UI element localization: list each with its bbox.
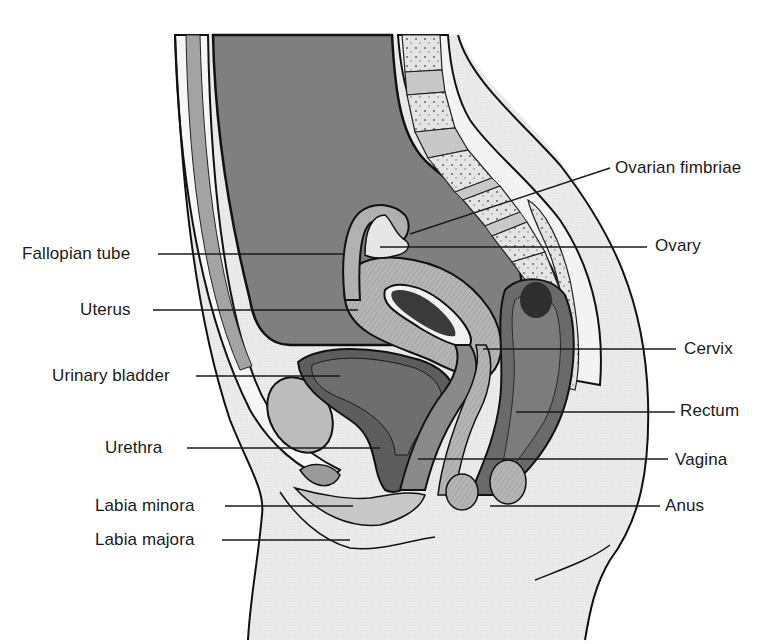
label-labia-majora: Labia majora [95, 530, 194, 550]
label-cervix: Cervix [684, 339, 733, 359]
label-ovarian-fimbriae: Ovarian fimbriae [615, 158, 741, 178]
label-uterus: Uterus [80, 300, 131, 320]
label-labia-minora: Labia minora [95, 496, 194, 516]
label-urethra: Urethra [105, 438, 162, 458]
anal-sphincter [446, 474, 478, 510]
anatomy-figure: Fallopian tube Uterus Urinary bladder Ur… [0, 0, 784, 644]
label-rectum: Rectum [680, 401, 739, 421]
label-fallopian-tube: Fallopian tube [22, 244, 130, 264]
label-ovary: Ovary [655, 236, 701, 256]
label-anus: Anus [665, 496, 704, 516]
label-urinary-bladder: Urinary bladder [52, 366, 170, 386]
label-vagina: Vagina [675, 450, 727, 470]
